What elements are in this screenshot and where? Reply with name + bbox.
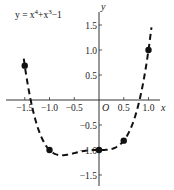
- x-tick-label: −1.0: [41, 103, 58, 113]
- x-tick-label: 1.0: [143, 103, 155, 113]
- function-label: y = x4+x3−1: [15, 8, 62, 20]
- y-tick-label: 1.5: [85, 21, 97, 31]
- y-axis-label: y: [100, 1, 106, 12]
- y-tick-label: −1.5: [80, 171, 97, 181]
- data-point: [46, 147, 52, 153]
- x-tick-label: −1.5: [16, 103, 33, 113]
- x-tick-label: 0.5: [118, 103, 130, 113]
- x-axis-label: x: [160, 102, 166, 113]
- data-point: [145, 47, 151, 53]
- data-point: [22, 62, 28, 68]
- y-tick-label: 1.0: [85, 46, 97, 56]
- data-point: [96, 147, 102, 153]
- origin-label: O: [102, 102, 109, 113]
- data-point: [121, 137, 127, 143]
- function-plot: −1.5−1.0−0.50.51.0 1.51.00.5−0.5−1.0−1.5…: [0, 0, 174, 190]
- x-ticks: −1.5−1.0−0.50.51.0: [16, 97, 155, 113]
- y-tick-label: −0.5: [80, 121, 97, 131]
- y-tick-label: 0.5: [85, 71, 97, 81]
- x-tick-label: −0.5: [66, 103, 83, 113]
